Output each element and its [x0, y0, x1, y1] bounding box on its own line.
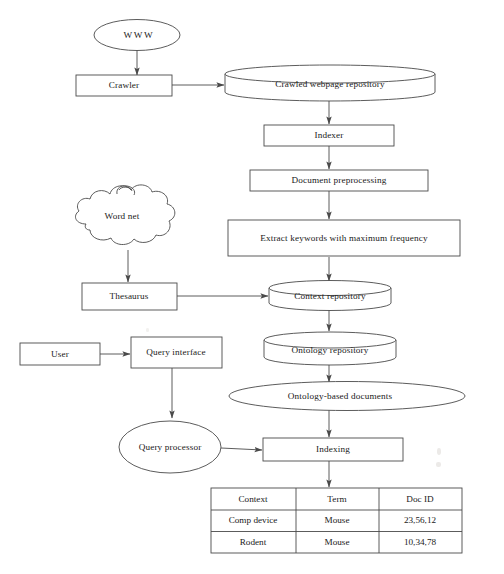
node-indexer-label: Indexer	[314, 130, 343, 140]
node-crawler-label: Crawler	[109, 80, 140, 90]
node-crawler[interactable]: Crawler	[76, 75, 172, 96]
node-query-interface[interactable]: Query interface	[131, 337, 222, 368]
node-extract-keywords-label: Extract keywords with maximum frequency	[260, 233, 428, 243]
node-ontology-repo[interactable]: Ontology repository	[264, 332, 396, 365]
node-extract-keywords[interactable]: Extract keywords with maximum frequency	[228, 220, 460, 256]
table-cell: Comp device	[229, 515, 278, 525]
table-cell: Rodent	[240, 537, 267, 547]
node-indexing-label: Indexing	[316, 444, 350, 454]
node-query-processor[interactable]: Query processor	[119, 421, 221, 473]
table-cell: Mouse	[324, 515, 349, 525]
flowchart-canvas: WWW Crawler Crawled webpage repository I…	[0, 0, 504, 574]
table-header-cell: Context	[238, 494, 268, 504]
node-www[interactable]: WWW	[94, 20, 180, 51]
node-www-label: WWW	[124, 30, 155, 40]
table-cell: Mouse	[324, 537, 349, 547]
node-word-net-label: Word net	[105, 211, 140, 221]
node-crawled-repo-label: Crawled webpage repository	[275, 79, 385, 89]
node-document-preprocessing[interactable]: Document preprocessing	[250, 170, 428, 191]
table-row[interactable]: Comp device Mouse 23,56,12	[229, 515, 437, 525]
table-header-cell: Term	[327, 494, 346, 504]
node-query-interface-label: Query interface	[146, 347, 206, 357]
node-document-preprocessing-label: Document preprocessing	[292, 175, 387, 185]
table-cell: 10,34,78	[404, 537, 437, 547]
index-table[interactable]: Context Term Doc ID Comp device Mouse 23…	[211, 488, 462, 553]
flowchart-diagram: WWW Crawler Crawled webpage repository I…	[0, 0, 504, 574]
node-query-processor-label: Query processor	[139, 442, 202, 452]
node-thesaurus[interactable]: Thesaurus	[82, 283, 177, 310]
node-ontology-documents[interactable]: Ontology-based documents	[229, 382, 465, 411]
node-word-net[interactable]: Word net	[75, 185, 174, 245]
node-indexing[interactable]: Indexing	[263, 438, 403, 461]
node-user[interactable]: User	[20, 343, 100, 365]
table-cell: 23,56,12	[404, 515, 437, 525]
node-indexer[interactable]: Indexer	[264, 125, 394, 146]
node-context-repo-label: Context repository	[294, 291, 366, 301]
node-context-repo[interactable]: Context repository	[269, 281, 391, 311]
node-user-label: User	[51, 349, 69, 359]
node-ontology-repo-label: Ontology repository	[291, 345, 368, 355]
node-ontology-documents-label: Ontology-based documents	[288, 391, 393, 401]
node-crawled-repo[interactable]: Crawled webpage repository	[225, 65, 435, 101]
edge-query-processor-to-indexing	[221, 448, 262, 450]
table-header-cell: Doc ID	[406, 494, 434, 504]
node-thesaurus-label: Thesaurus	[109, 291, 148, 301]
